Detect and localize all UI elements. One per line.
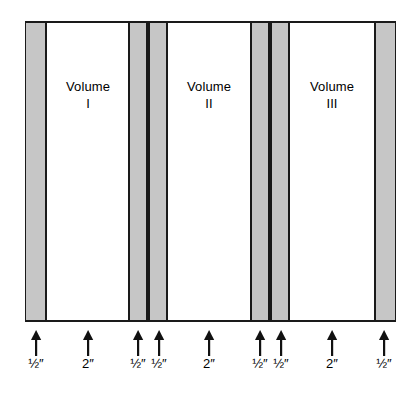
volume-title-1: Volume (66, 79, 110, 94)
up-arrow-icon (354, 330, 414, 356)
measurement-value: ½ (273, 356, 284, 371)
up-arrow-icon (302, 330, 362, 356)
volume-label-1: VolumeI (43, 78, 133, 112)
measurement-value: ½ (28, 356, 39, 371)
divider-band-1 (26, 23, 47, 320)
inch-mark: ″ (39, 356, 44, 371)
divider-band-3 (148, 23, 168, 320)
inch-mark: ″ (387, 356, 392, 371)
shelf-box: VolumeI VolumeII VolumeIII (25, 21, 396, 322)
measurement-callouts: ½″2″½″½″2″½″½″2″½″ (0, 322, 420, 401)
inch-mark: ″ (89, 356, 94, 371)
measurement-label: 2″ (302, 356, 362, 371)
inch-mark: ″ (284, 356, 289, 371)
measurement-value: ½ (151, 356, 162, 371)
divider-band-5 (270, 23, 290, 320)
inch-mark: ″ (210, 356, 215, 371)
divider-band-2 (128, 23, 148, 320)
measurement-m9: ½″ (354, 322, 414, 371)
volume-title-2: Volume (187, 79, 231, 94)
volume-title-3: Volume (310, 79, 354, 94)
volume-label-2: VolumeII (164, 78, 254, 112)
measurement-m1: ½″ (6, 322, 66, 371)
up-arrow-icon (6, 330, 66, 356)
measurement-m8: 2″ (302, 322, 362, 371)
volume-numeral-3: III (326, 96, 337, 111)
volume-label-3: VolumeIII (287, 78, 377, 112)
measurement-label: ½″ (354, 356, 414, 371)
measurement-value: ½ (376, 356, 387, 371)
diagram-root: VolumeI VolumeII VolumeIII ½″2″½″½″2″½″½… (0, 0, 420, 401)
volume-numeral-2: II (205, 96, 212, 111)
volume-numeral-1: I (86, 96, 90, 111)
divider-band-6 (374, 23, 395, 320)
inch-mark: ″ (333, 356, 338, 371)
divider-band-4 (250, 23, 270, 320)
measurement-label: ½″ (6, 356, 66, 371)
inch-mark: ″ (162, 356, 167, 371)
